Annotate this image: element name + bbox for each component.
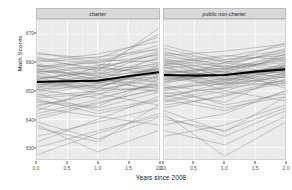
x-tick-label: 1.0	[221, 165, 228, 171]
y-tick-label: 630	[8, 145, 34, 151]
x-tick-mark	[286, 161, 287, 164]
x-tick-group: 0.00.51.01.52.0	[163, 161, 287, 173]
x-tick-mark	[159, 161, 160, 164]
x-tick-label: 2.0	[283, 165, 290, 171]
x-tick-label: 1.0	[94, 165, 101, 171]
x-tick-mark	[193, 161, 194, 164]
x-tick-label: 1.5	[252, 165, 259, 171]
chart-root: 670660650640630 Math Scores charterpubli…	[0, 0, 292, 190]
plot-area	[36, 19, 160, 160]
x-tick-label: 0.5	[190, 165, 197, 171]
x-tick-mark	[224, 161, 225, 164]
facet-panel-public-non-charter: public non-charter	[163, 8, 287, 160]
x-tick-label: 1.5	[125, 165, 132, 171]
y-axis-title: Math Scores	[16, 9, 23, 99]
facet-strip-label: charter	[36, 8, 160, 19]
x-tick-label: 0.0	[33, 165, 40, 171]
x-tick-label: 0.0	[159, 165, 166, 171]
x-tick-mark	[66, 161, 67, 164]
x-tick-label: 0.5	[63, 165, 70, 171]
plot-area	[163, 19, 287, 160]
x-tick-mark	[97, 161, 98, 164]
x-tick-mark	[162, 161, 163, 164]
facet-strip-label: public non-charter	[163, 8, 287, 19]
y-tick-label: 640	[8, 117, 34, 123]
x-tick-mark	[128, 161, 129, 164]
x-axis-title: Years since 2008	[36, 174, 286, 181]
facet-panels: charterpublic non-charter	[36, 8, 286, 160]
x-tick-mark	[36, 161, 37, 164]
x-tick-mark	[255, 161, 256, 164]
x-axis-ticks: 0.00.51.01.52.00.00.51.01.52.0	[36, 161, 286, 173]
x-tick-group: 0.00.51.01.52.0	[36, 161, 160, 173]
facet-panel-charter: charter	[36, 8, 160, 160]
